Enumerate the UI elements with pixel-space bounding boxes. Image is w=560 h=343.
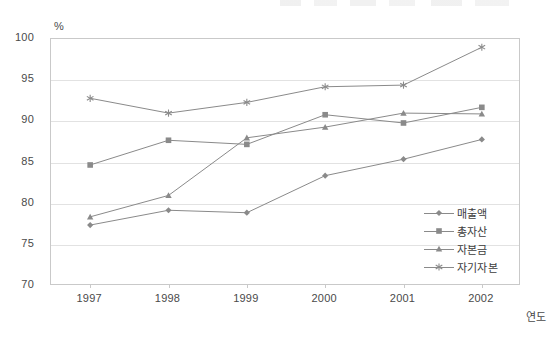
- series-1: [87, 105, 484, 168]
- y-axis-tick-label: 85: [4, 155, 34, 167]
- data-point-diamond: [479, 136, 485, 142]
- cropped-title-strip: [280, 0, 540, 6]
- x-axis-title: 연도: [526, 308, 546, 324]
- line-chart: % 707580859095100 1997199819992000200120…: [0, 0, 560, 343]
- legend-label: 총자산: [457, 223, 488, 239]
- data-point-diamond: [244, 210, 250, 216]
- x-axis-tick-label: 1999: [233, 292, 258, 304]
- legend-item-총자산[interactable]: 총자산: [424, 223, 498, 238]
- data-point-triangle: [165, 192, 171, 198]
- legend-label: 자본금: [457, 241, 488, 257]
- data-point-square: [244, 142, 250, 148]
- data-point-diamond: [436, 209, 442, 215]
- data-point-asterisk: [479, 44, 486, 51]
- legend-label: 자기자본: [457, 259, 498, 275]
- y-axis-tick-label: 100: [4, 31, 34, 43]
- legend-marker-triangle-icon: [424, 243, 454, 255]
- y-axis-tick-label: 70: [4, 278, 34, 290]
- series-line: [90, 47, 482, 113]
- legend-item-자본금[interactable]: 자본금: [424, 241, 498, 256]
- data-point-triangle: [436, 245, 442, 251]
- x-axis-tick-label: 1997: [77, 292, 102, 304]
- legend-marker-asterisk-icon: [424, 261, 454, 273]
- legend-item-매출액[interactable]: 매출액: [424, 205, 498, 220]
- legend-marker-square-icon: [424, 225, 454, 237]
- y-axis-tick-label: 80: [4, 196, 34, 208]
- x-axis-tick-label: 1998: [155, 292, 180, 304]
- y-axis-unit-label: %: [54, 20, 64, 32]
- series-2: [87, 110, 485, 220]
- data-point-square: [401, 120, 407, 126]
- y-axis-tick-label: 90: [4, 113, 34, 125]
- data-point-square: [436, 228, 442, 234]
- data-point-square: [322, 112, 328, 118]
- chart-legend: 매출액총자산자본금자기자본: [424, 205, 498, 274]
- data-point-diamond: [400, 156, 406, 162]
- legend-marker-diamond-icon: [424, 207, 454, 219]
- x-axis-tick-label: 2000: [312, 292, 337, 304]
- y-axis-tick-label: 75: [4, 237, 34, 249]
- data-point-square: [87, 162, 93, 168]
- data-point-square: [479, 105, 485, 111]
- series-3: [87, 44, 485, 117]
- series-line: [90, 113, 482, 217]
- series-line: [90, 107, 482, 165]
- x-axis-tick-label: 2002: [468, 292, 493, 304]
- data-point-square: [166, 137, 172, 143]
- data-point-diamond: [322, 173, 328, 179]
- data-point-diamond: [87, 222, 93, 228]
- x-axis-tick-label: 2001: [390, 292, 415, 304]
- data-point-asterisk: [436, 263, 443, 270]
- legend-item-자기자본[interactable]: 자기자본: [424, 259, 498, 274]
- data-point-diamond: [165, 207, 171, 213]
- y-axis-tick-label: 95: [4, 72, 34, 84]
- legend-label: 매출액: [457, 205, 488, 221]
